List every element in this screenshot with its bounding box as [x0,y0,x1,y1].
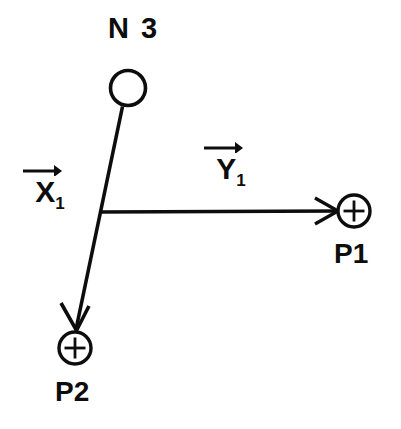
vector-overbar-arrow-icon [203,140,259,153]
vector-x1-subscript: 1 [55,195,64,212]
node-p1[interactable] [338,195,370,227]
edge-n3-to-p2 [61,107,123,331]
arrowhead-x1-open-v [61,303,89,331]
vector-y1-base: Y [216,154,236,184]
vector-x1-base: X [35,177,55,207]
vector-overbar-arrow-icon [22,163,78,176]
node-label-p2: P2 [55,378,89,406]
edge-line-y1 [100,211,337,212]
vector-y1-subscript: 1 [236,172,245,189]
node-label-n3: N 3 [108,14,159,43]
node-p2[interactable] [59,332,91,364]
edge-junction-to-p1 [100,198,338,224]
vector-label-y1: Y1 [203,140,259,184]
diagram-canvas: N 3 X1 Y1 P1 P2 [0,0,401,429]
vector-label-x1: X1 [22,163,78,207]
node-n3[interactable] [111,71,146,106]
node-n3-circle [111,71,146,106]
node-label-p1: P1 [334,240,368,268]
edge-line-x1 [77,107,123,328]
vector-diagram-svg [0,0,401,429]
